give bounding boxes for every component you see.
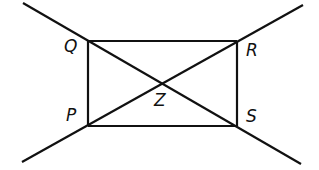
label-P: P bbox=[66, 107, 76, 124]
label-R: R bbox=[246, 42, 258, 59]
label-Z: Z bbox=[154, 92, 166, 109]
geometry-diagram bbox=[0, 0, 319, 170]
label-S: S bbox=[246, 108, 257, 125]
label-Q: Q bbox=[64, 38, 77, 55]
line-PR bbox=[22, 5, 303, 162]
